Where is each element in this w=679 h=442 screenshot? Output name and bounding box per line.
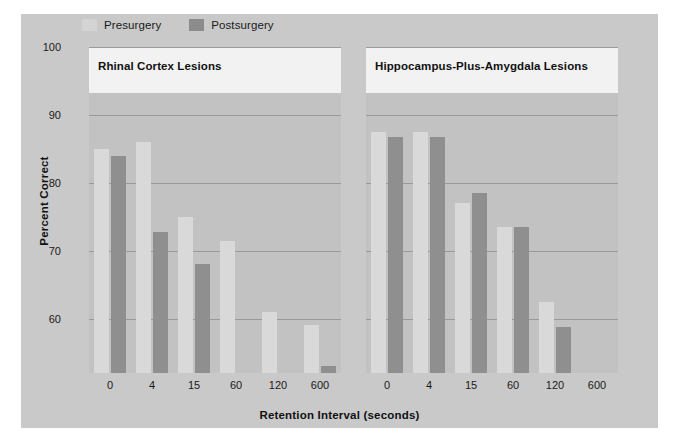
x-tick-label: 0 xyxy=(107,379,113,391)
x-tick-label: 600 xyxy=(311,379,329,391)
bar-presurgery-0 xyxy=(371,132,386,373)
panel-rhinal-cortex: Rhinal Cortex Lesions xyxy=(89,47,341,373)
bars-b xyxy=(366,47,618,373)
bar-presurgery-15 xyxy=(178,217,193,373)
x-tick-label: 120 xyxy=(546,379,564,391)
legend-label-postsurgery: Postsurgery xyxy=(211,19,273,31)
legend-swatch-presurgery xyxy=(82,19,97,31)
legend-swatch-postsurgery xyxy=(189,19,204,31)
bar-presurgery-120 xyxy=(262,312,277,373)
bar-postsurgery-120 xyxy=(556,327,571,373)
y-tick-label: 70 xyxy=(27,245,61,257)
y-axis-ticks: 60708090100 xyxy=(27,0,61,442)
x-tick-label: 15 xyxy=(188,379,200,391)
y-tick-label: 90 xyxy=(27,109,61,121)
x-tick-label: 4 xyxy=(149,379,155,391)
y-tick-label: 100 xyxy=(27,41,61,53)
bars-a xyxy=(89,47,341,373)
legend-item-postsurgery: Postsurgery xyxy=(189,19,273,31)
y-tick-label: 80 xyxy=(27,177,61,189)
y-tick-label: 60 xyxy=(27,313,61,325)
legend: Presurgery Postsurgery xyxy=(82,17,274,33)
bar-postsurgery-0 xyxy=(111,156,126,373)
bar-presurgery-4 xyxy=(136,142,151,373)
bar-postsurgery-60 xyxy=(514,227,529,373)
x-tick-label: 60 xyxy=(230,379,242,391)
panel-hippocampus-amygdala: Hippocampus-Plus-Amygdala Lesions xyxy=(366,47,618,373)
bar-presurgery-60 xyxy=(497,227,512,373)
x-axis-ticks: 041560120600041560120600 xyxy=(0,379,679,395)
bar-postsurgery-600 xyxy=(321,366,336,373)
bar-postsurgery-15 xyxy=(195,264,210,373)
x-tick-label: 600 xyxy=(588,379,606,391)
x-tick-label: 60 xyxy=(507,379,519,391)
bar-presurgery-0 xyxy=(94,149,109,373)
legend-item-presurgery: Presurgery xyxy=(82,19,161,31)
figure: Presurgery Postsurgery Percent Correct 6… xyxy=(0,0,679,442)
bar-postsurgery-4 xyxy=(430,137,445,373)
bar-presurgery-120 xyxy=(539,302,554,373)
x-tick-label: 0 xyxy=(384,379,390,391)
x-tick-label: 120 xyxy=(269,379,287,391)
bar-postsurgery-15 xyxy=(472,193,487,373)
legend-label-presurgery: Presurgery xyxy=(104,19,161,31)
bar-presurgery-4 xyxy=(413,132,428,373)
x-tick-label: 4 xyxy=(426,379,432,391)
bar-postsurgery-4 xyxy=(153,232,168,373)
bar-presurgery-60 xyxy=(220,241,235,373)
bar-presurgery-15 xyxy=(455,203,470,373)
x-axis-title: Retention Interval (seconds) xyxy=(0,409,679,421)
bar-presurgery-600 xyxy=(304,325,319,373)
x-tick-label: 15 xyxy=(465,379,477,391)
bar-postsurgery-0 xyxy=(388,137,403,373)
